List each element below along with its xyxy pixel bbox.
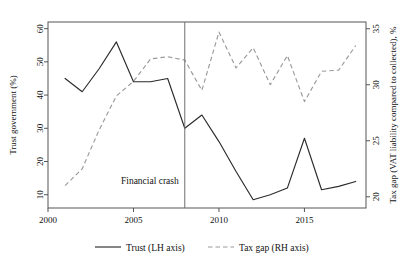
y-axis-title-left: Trust government (%) — [8, 75, 18, 155]
y-axis-title-right: Tax gap (VAT liability compared to colle… — [388, 26, 398, 203]
x-axis-tick-label: 2005 — [124, 215, 143, 225]
dual-axis-line-chart: 102030405060 20253035 2000200520102015 F… — [0, 0, 406, 264]
chart-legend: Trust (LH axis) Tax gap (RH axis) — [95, 243, 309, 254]
left-axis-tick-label: 60 — [35, 24, 45, 34]
left-axis-tick-label: 40 — [35, 90, 45, 100]
x-axis-tick-label: 2000 — [39, 215, 58, 225]
left-axis-tick-label: 30 — [35, 123, 45, 133]
annotation-group: Financial crash — [121, 22, 185, 208]
right-axis-tick-label: 20 — [371, 192, 381, 202]
chart-figure: 102030405060 20253035 2000200520102015 F… — [0, 0, 406, 264]
x-axis-tick-label: 2015 — [295, 215, 314, 225]
series-group — [65, 32, 356, 200]
left-axis-tick-label: 20 — [35, 157, 45, 167]
right-axis: 20253035 — [366, 24, 381, 202]
left-axis-tick-label: 50 — [35, 57, 45, 67]
x-axis-tick-label: 2010 — [210, 215, 229, 225]
right-axis-tick-label: 30 — [371, 80, 381, 90]
financial-crash-label: Financial crash — [121, 176, 179, 186]
left-axis: 102030405060 — [35, 24, 48, 200]
right-axis-tick-label: 35 — [371, 24, 381, 34]
right-axis-tick-label: 25 — [371, 136, 381, 146]
legend-label-tax-gap: Tax gap (RH axis) — [239, 243, 309, 254]
legend-label-trust: Trust (LH axis) — [126, 243, 185, 254]
series-line-trust — [65, 42, 356, 200]
left-axis-tick-label: 10 — [35, 190, 45, 200]
x-axis: 2000200520102015 — [39, 208, 314, 225]
